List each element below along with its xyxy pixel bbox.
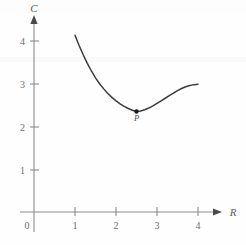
chart-svg: 1 2 3 4 1 2 3 4 0 C R P	[0, 0, 246, 245]
x-axis-arrowhead	[213, 209, 222, 216]
y-tick-label-1: 1	[20, 165, 25, 176]
x-tick-label-1: 1	[73, 220, 78, 231]
average-cost-chart: 1 2 3 4 1 2 3 4 0 C R P	[0, 0, 246, 245]
x-tick-label-4: 4	[196, 220, 201, 231]
cost-curve	[75, 35, 198, 111]
y-tick-label-3: 3	[20, 79, 25, 90]
y-axis-arrowhead	[30, 15, 37, 24]
x-axis-label: R	[229, 206, 237, 218]
y-tick-label-2: 2	[20, 122, 25, 133]
origin-label: 0	[25, 220, 30, 231]
y-tick-label-4: 4	[20, 36, 25, 47]
y-axis-label: C	[30, 2, 38, 14]
minimum-point-label: P	[133, 113, 139, 123]
x-tick-label-3: 3	[155, 220, 160, 231]
x-tick-label-2: 2	[114, 220, 119, 231]
